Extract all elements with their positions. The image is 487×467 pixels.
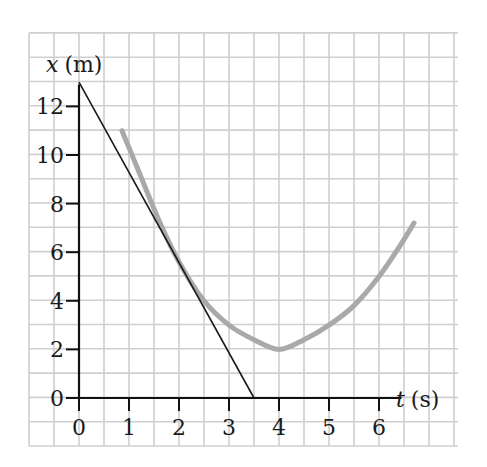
x-tick-label: 4 [272, 415, 286, 440]
x-axis-unit: (s) [411, 387, 439, 412]
x-tick-label: 3 [222, 415, 236, 440]
axes: 0123456024681012 [36, 85, 402, 440]
y-tick-label: 10 [36, 143, 64, 168]
y-axis-title: x(m) [46, 52, 102, 77]
y-axis-variable: x [46, 52, 59, 77]
y-tick-label: 4 [50, 289, 64, 314]
position-time-chart: 0123456024681012 x(m) t(s) [0, 0, 487, 467]
x-axis-variable: t [396, 387, 405, 412]
x-axis-title: t(s) [396, 387, 439, 412]
x-tick-label: 2 [172, 415, 186, 440]
x-tick-label: 0 [72, 415, 86, 440]
y-axis-unit: (m) [64, 52, 102, 77]
y-tick-label: 6 [50, 240, 64, 265]
y-tick-label: 12 [36, 94, 64, 119]
x-tick-label: 5 [322, 415, 336, 440]
x-tick-label: 6 [372, 415, 386, 440]
y-tick-label: 8 [50, 192, 64, 217]
y-tick-label: 2 [50, 337, 64, 362]
y-tick-label: 0 [50, 386, 64, 411]
x-tick-label: 1 [122, 415, 136, 440]
grid [29, 33, 458, 446]
